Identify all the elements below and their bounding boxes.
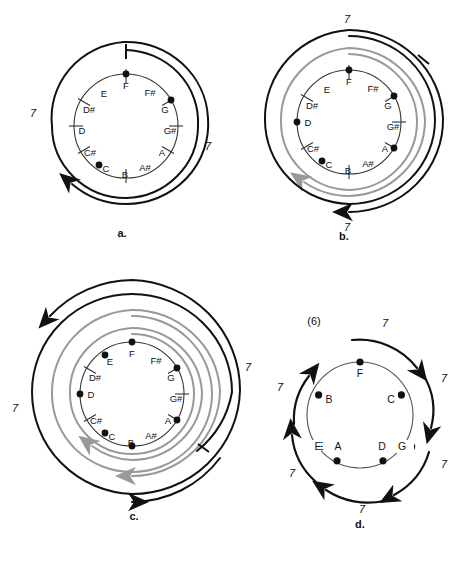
spiral-black-c [32, 280, 240, 502]
note-label-G: G [384, 100, 391, 111]
note-label-Fs: F# [367, 83, 379, 94]
panel-b-diagram: F F# G G# A A# B C C# D D# E 7 7 [232, 8, 460, 246]
note-dot-F [123, 71, 130, 78]
note-dot-B [315, 391, 322, 398]
note-dot-C [319, 158, 326, 165]
note-dot-F [346, 67, 353, 74]
note-dot-A [391, 145, 398, 152]
panel-c: F F# G G# A A# B C C# D D# E 7 7 c. [4, 262, 266, 538]
note-dot-G [391, 93, 398, 100]
note-label-A: A [334, 440, 341, 452]
note-dot-C [398, 391, 405, 398]
note-label-E: E [101, 88, 107, 99]
note-label-D: D [305, 117, 312, 128]
panel-c-diagram: F F# G G# A A# B C C# D D# E 7 7 [4, 262, 266, 538]
note-label-D: D [88, 389, 95, 400]
note-label-B: B [345, 165, 351, 176]
note-label-E-side: E [314, 440, 321, 452]
note-label-A: A [165, 415, 172, 426]
panel-d: F C G D A E B E G 7 7 7 7 [272, 302, 462, 546]
interval-label-left-c: 7 [12, 402, 19, 414]
note-label-F: F [123, 80, 129, 91]
note-dot-F [129, 339, 136, 346]
interval-label-5: 7 [289, 467, 296, 479]
note-label-C: C [109, 431, 116, 442]
note-dot-G [174, 365, 181, 372]
note-label-G: G [161, 104, 168, 115]
caption-d: d. [340, 518, 380, 530]
note-label-G: G [167, 372, 174, 383]
note-dot-D [379, 457, 386, 464]
note-label-A: A [159, 147, 166, 158]
interval-label-top-b: 7 [344, 13, 351, 25]
note-label-Fs: F# [144, 87, 156, 98]
note-label-B: B [325, 393, 332, 405]
size-label-d: (6) [307, 315, 320, 327]
interval-label-4: 7 [359, 503, 366, 515]
panel-b: F F# G G# A A# B C C# D D# E 7 7 b. [232, 8, 460, 246]
interval-labels-d: 7 7 7 7 7 7 [277, 317, 448, 515]
interval-label-6: 7 [277, 381, 284, 393]
note-label-Cs: C# [307, 143, 320, 154]
interval-label-right-a: 7 [205, 140, 212, 152]
interval-label-right-c: 7 [245, 361, 252, 373]
note-labels-a: F F# G G# A A# B C C# D D# E [79, 80, 177, 180]
note-dot-G [168, 97, 175, 104]
note-label-Ds: D# [89, 372, 102, 383]
note-label-As: A# [362, 158, 374, 169]
caption-c: c. [114, 510, 154, 522]
note-label-As: A# [139, 162, 151, 173]
note-label-E: E [107, 356, 113, 367]
note-label-As: A# [145, 430, 157, 441]
interval-label-2: 7 [441, 372, 448, 384]
note-dot-A [174, 417, 181, 424]
note-label-Ds: D# [306, 100, 319, 111]
note-dot-D [77, 391, 84, 398]
note-label-E: E [324, 84, 330, 95]
note-dot-C [102, 430, 109, 437]
note-dot-A [333, 457, 340, 464]
note-label-B: B [128, 437, 134, 448]
interval-label-3: 7 [441, 458, 448, 470]
panel-a-diagram: F F# G G# A A# B C C# D D# E 7 7 [14, 14, 230, 244]
spiral-black-a [52, 42, 209, 204]
note-label-Cs: C# [84, 147, 97, 158]
interval-label-1: 7 [382, 317, 389, 329]
panel-a: F F# G G# A A# B C C# D D# E 7 7 a. [14, 14, 230, 244]
panel-d-diagram: F C G D A E B E G 7 7 7 7 [272, 302, 462, 546]
note-label-Gs: G# [170, 393, 183, 404]
note-dot-C [96, 162, 103, 169]
note-label-F: F [357, 367, 363, 379]
caption-b: b. [324, 230, 364, 242]
note-label-A: A [382, 143, 389, 154]
note-dot-F [356, 358, 363, 365]
caption-a: a. [102, 227, 142, 239]
note-label-F: F [129, 348, 135, 359]
note-label-F: F [346, 76, 352, 87]
fifth-arrow-3 [394, 452, 429, 495]
interval-label-left-a: 7 [30, 107, 37, 119]
note-dot-D [294, 119, 301, 126]
note-label-C: C [103, 163, 110, 174]
note-label-C: C [326, 159, 333, 170]
fifth-arrow-4 [326, 490, 384, 503]
note-label-D: D [378, 440, 386, 452]
note-label-C: C [387, 393, 395, 405]
note-label-D: D [79, 125, 86, 136]
note-label-Ds: D# [83, 104, 96, 115]
note-label-Gs: G# [387, 121, 400, 132]
fifth-arrow-2 [424, 376, 433, 428]
note-label-Fs: F# [150, 355, 162, 366]
note-label-B: B [122, 169, 128, 180]
note-label-Cs: C# [90, 415, 103, 426]
note-labels-d-sides: E G [297, 440, 414, 453]
note-label-Gs: G# [164, 125, 177, 136]
note-label-G-side: G [398, 440, 406, 452]
note-labels-d: F C G D A E B [316, 367, 403, 452]
